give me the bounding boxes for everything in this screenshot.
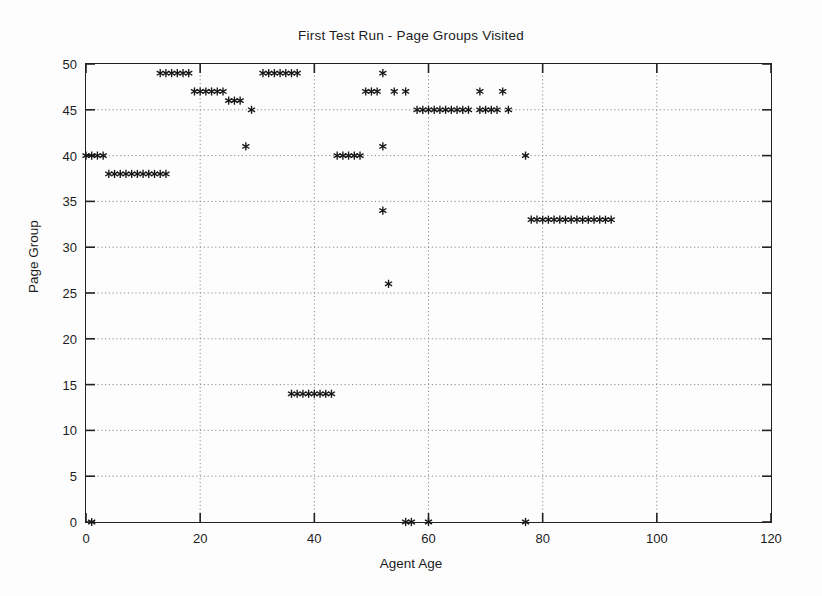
data-point [185, 69, 192, 77]
data-point [259, 69, 266, 77]
data-point [191, 87, 198, 95]
data-point [391, 87, 398, 95]
x-tick-label: 60 [421, 531, 435, 546]
data-point [596, 216, 603, 224]
data-point [151, 170, 158, 178]
data-point [539, 216, 546, 224]
data-point [208, 87, 215, 95]
data-point [339, 152, 346, 160]
data-point [111, 170, 118, 178]
chart-title: First Test Run - Page Groups Visited [0, 28, 822, 43]
data-point [237, 97, 244, 105]
data-point [197, 87, 204, 95]
y-tick-label: 50 [63, 57, 77, 72]
data-point [94, 152, 101, 160]
data-point [608, 216, 615, 224]
data-point [562, 216, 569, 224]
data-point [568, 216, 575, 224]
y-tick-label: 20 [63, 331, 77, 346]
data-point [573, 216, 580, 224]
data-point [448, 106, 455, 114]
data-point [528, 216, 535, 224]
data-point [362, 87, 369, 95]
data-point [493, 106, 500, 114]
data-point [162, 170, 169, 178]
data-point [168, 69, 175, 77]
y-tick-label: 35 [63, 194, 77, 209]
data-point [385, 280, 392, 288]
data-point [419, 106, 426, 114]
data-point [157, 69, 164, 77]
data-point [305, 390, 312, 398]
data-point [288, 69, 295, 77]
data-point [505, 106, 512, 114]
data-point [436, 106, 443, 114]
data-point [248, 106, 255, 114]
data-point [174, 69, 181, 77]
data-point [488, 106, 495, 114]
data-point [522, 518, 529, 526]
x-tick-label: 120 [760, 531, 782, 546]
x-tick-label: 100 [646, 531, 668, 546]
y-tick-label: 40 [63, 148, 77, 163]
data-point [579, 216, 586, 224]
y-axis-label: Page Group [26, 220, 41, 293]
data-point [294, 69, 301, 77]
data-point [214, 87, 221, 95]
data-point [476, 106, 483, 114]
data-point [225, 97, 232, 105]
data-point [356, 152, 363, 160]
y-tick-label: 0 [70, 515, 77, 530]
data-point [379, 69, 386, 77]
data-point [140, 170, 147, 178]
data-point [414, 106, 421, 114]
plot-area: 05101520253035404550020406080100120 [85, 63, 772, 523]
data-point [231, 97, 238, 105]
data-point [88, 152, 95, 160]
data-point [379, 206, 386, 214]
data-point [299, 390, 306, 398]
data-point [294, 390, 301, 398]
data-point [145, 170, 152, 178]
data-point [402, 518, 409, 526]
data-point [105, 170, 112, 178]
data-point [425, 106, 432, 114]
data-point [82, 152, 89, 160]
data-point [322, 390, 329, 398]
data-point [533, 216, 540, 224]
data-point [551, 216, 558, 224]
x-tick-label: 40 [307, 531, 321, 546]
x-axis-label: Agent Age [0, 556, 822, 571]
x-tick-label: 80 [535, 531, 549, 546]
data-point [179, 69, 186, 77]
data-point [311, 390, 318, 398]
y-tick-label: 10 [63, 423, 77, 438]
data-point [465, 106, 472, 114]
data-point [585, 216, 592, 224]
data-point [345, 152, 352, 160]
data-point [242, 142, 249, 150]
data-point [162, 69, 169, 77]
data-point [219, 87, 226, 95]
data-point [128, 170, 135, 178]
data-point [288, 390, 295, 398]
y-tick-label: 15 [63, 377, 77, 392]
data-point [334, 152, 341, 160]
y-tick-label: 25 [63, 286, 77, 301]
y-tick-label: 5 [70, 469, 77, 484]
data-point [476, 87, 483, 95]
data-point [328, 390, 335, 398]
data-point [545, 216, 552, 224]
data-point [408, 518, 415, 526]
data-point [379, 142, 386, 150]
x-tick-label: 20 [193, 531, 207, 546]
data-point [522, 152, 529, 160]
data-point [590, 216, 597, 224]
data-point [117, 170, 124, 178]
data-point [482, 106, 489, 114]
data-point [202, 87, 209, 95]
data-point [368, 87, 375, 95]
data-point [453, 106, 460, 114]
data-point [351, 152, 358, 160]
data-point [425, 518, 432, 526]
